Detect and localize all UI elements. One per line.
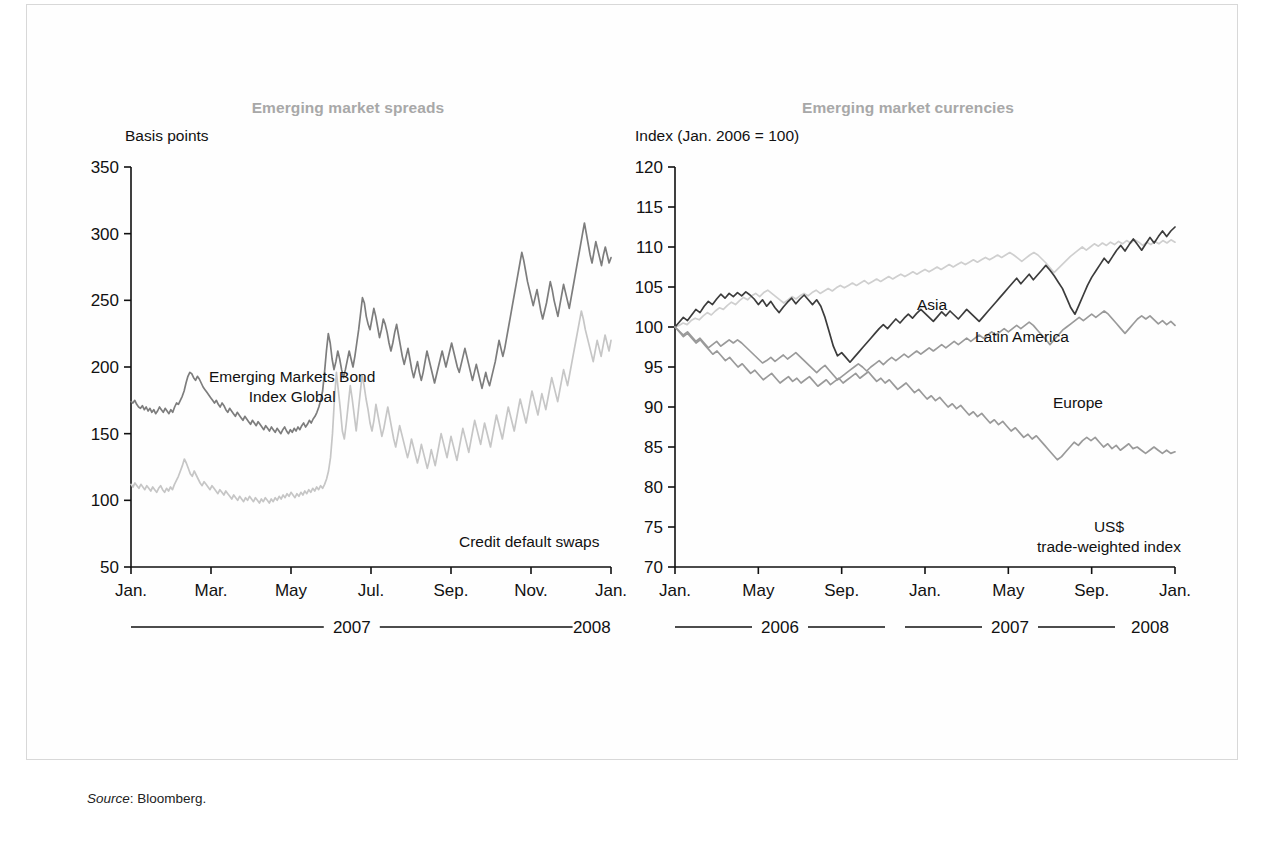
year-band-label: 2008 <box>1131 618 1169 637</box>
source-note: Source: Bloomberg. <box>87 791 206 806</box>
y-tick-label: 350 <box>91 158 119 177</box>
y-tick-label: 250 <box>91 291 119 310</box>
y-tick-label: 200 <box>91 358 119 377</box>
plot-area-right: 707580859095100105110115120Jan.MaySep.Ja… <box>613 149 1203 649</box>
x-tick-label: May <box>275 581 308 600</box>
chart-title-left: Emerging market spreads <box>63 99 633 117</box>
x-tick-label: Jan. <box>1159 581 1191 600</box>
chart-panel-emerging-market-currencies: Emerging market currencies Index (Jan. 2… <box>613 39 1203 679</box>
year-band-label: 2006 <box>761 618 799 637</box>
series-label-us-trade-weighted-index: US$trade-weighted index <box>1037 517 1181 557</box>
source-label: Source <box>87 791 130 806</box>
x-tick-label: Sep. <box>434 581 469 600</box>
y-tick-label: 300 <box>91 225 119 244</box>
series-label-europe: Europe <box>1053 393 1103 413</box>
y-tick-label: 110 <box>636 238 663 257</box>
y-tick-label: 80 <box>644 478 663 497</box>
y-tick-label: 100 <box>635 318 663 337</box>
x-tick-label: May <box>992 581 1025 600</box>
y-tick-label: 115 <box>636 198 663 217</box>
y-tick-label: 120 <box>635 158 663 177</box>
year-band-label: 2007 <box>991 618 1029 637</box>
y-tick-label: 150 <box>91 425 119 444</box>
y-tick-label: 75 <box>644 518 663 537</box>
x-tick-label: Sep. <box>1074 581 1109 600</box>
y-axis-label-right: Index (Jan. 2006 = 100) <box>635 127 799 145</box>
figure-frame: Emerging market spreads Basis points 501… <box>26 4 1238 760</box>
x-tick-label: Jan. <box>659 581 691 600</box>
series-line-credit-default-swaps <box>131 311 611 503</box>
y-tick-label: 70 <box>644 558 663 577</box>
y-tick-label: 105 <box>635 278 663 297</box>
year-band-label: 2008 <box>573 618 611 637</box>
y-axis-label-left: Basis points <box>125 127 209 145</box>
cutoff-header-text <box>87 11 1187 29</box>
series-label-latin-america: Latin America <box>975 327 1069 347</box>
x-tick-label: Jan. <box>909 581 941 600</box>
y-tick-label: 85 <box>644 438 663 457</box>
x-tick-label: Mar. <box>194 581 227 600</box>
chart-panel-emerging-market-spreads: Emerging market spreads Basis points 501… <box>63 39 633 679</box>
chart-title-right: Emerging market currencies <box>613 99 1203 117</box>
x-tick-label: Nov. <box>514 581 548 600</box>
x-tick-label: Sep. <box>824 581 859 600</box>
source-value: : Bloomberg. <box>130 791 207 806</box>
x-tick-label: May <box>742 581 775 600</box>
series-label-credit-default-swaps: Credit default swaps <box>459 532 599 552</box>
x-tick-label: Jul. <box>358 581 384 600</box>
x-tick-label: Jan. <box>115 581 147 600</box>
year-band-label: 2007 <box>333 618 371 637</box>
series-label-asia: Asia <box>917 295 947 315</box>
y-tick-label: 100 <box>91 491 119 510</box>
y-tick-label: 50 <box>100 558 119 577</box>
y-tick-label: 95 <box>644 358 663 377</box>
series-label-emerging-markets-bond-index-global: Emerging Markets BondIndex Global <box>209 367 375 407</box>
series-line-europe <box>675 311 1175 380</box>
y-tick-label: 90 <box>644 398 663 417</box>
